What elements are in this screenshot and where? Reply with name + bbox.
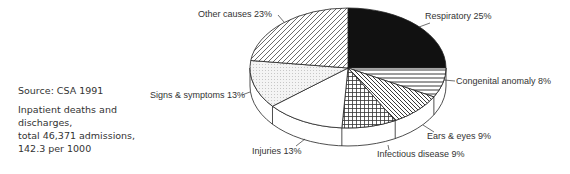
label-ears-eyes: Ears & eyes 9% bbox=[427, 131, 491, 141]
label-respiratory: Respiratory 25% bbox=[425, 11, 492, 21]
label-injuries: Injuries 13% bbox=[252, 146, 302, 156]
label-infectious-disease: Infectious disease 9% bbox=[377, 149, 465, 159]
label-congenital-anomaly: Congenital anomaly 8% bbox=[456, 76, 551, 86]
pie-chart: Respiratory 25%Congenital anomaly 8%Ears… bbox=[0, 0, 570, 174]
label-signs-symptoms: Signs & symptoms 13% bbox=[150, 90, 245, 100]
label-other-causes: Other causes 23% bbox=[198, 9, 272, 19]
pie-top-face bbox=[250, 8, 446, 128]
